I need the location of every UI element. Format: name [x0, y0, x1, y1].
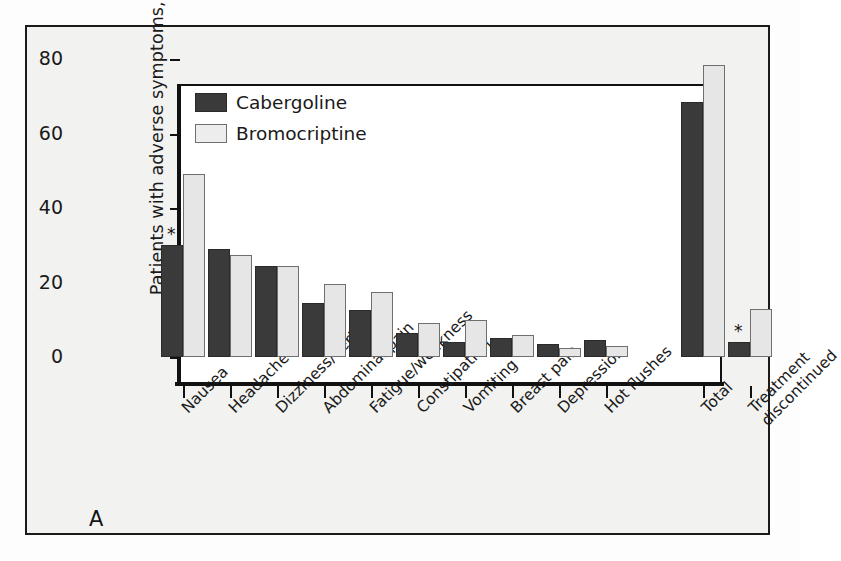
- y-tick-label: 40: [3, 196, 63, 218]
- y-tick-mark: [170, 208, 180, 210]
- bar-cabergoline-dizziness-vertigo: [255, 266, 277, 357]
- bar-bromocriptine-total: [703, 65, 725, 357]
- bar-bromocriptine-vomiting: [465, 320, 487, 357]
- panel-label: A: [89, 507, 103, 531]
- legend-swatch-cabergoline: [195, 93, 227, 112]
- legend-item-cabergoline: Cabergoline: [195, 89, 367, 116]
- bar-cabergoline-constipation: [396, 333, 418, 357]
- bar-cabergoline-vomiting: [443, 342, 465, 357]
- bar-bromocriptine-depression: [559, 348, 581, 357]
- y-tick-mark: [170, 134, 180, 136]
- legend-label-bromocriptine: Bromocriptine: [236, 123, 367, 144]
- bar-cabergoline-hot-flushes: [584, 340, 606, 357]
- significance-star: *: [167, 226, 176, 243]
- bar-cabergoline-depression: [537, 344, 559, 357]
- bar-bromocriptine-abdominal-pain: [324, 284, 346, 357]
- bar-bromocriptine-constipation: [418, 323, 440, 357]
- y-tick-label: 80: [3, 47, 63, 69]
- bar-cabergoline-abdominal-pain: [302, 303, 324, 357]
- y-tick-label: 0: [3, 345, 63, 367]
- significance-star: *: [734, 323, 743, 340]
- legend: Cabergoline Bromocriptine: [195, 89, 367, 151]
- bar-bromocriptine-treatment-discontinued: [750, 309, 772, 357]
- y-tick-label: 20: [3, 271, 63, 293]
- bar-bromocriptine-headache: [230, 255, 252, 357]
- y-axis-title-wrapper: Patients with adverse symptoms, %: [71, 87, 101, 387]
- legend-label-cabergoline: Cabergoline: [236, 92, 347, 113]
- y-tick-mark: [170, 357, 180, 359]
- bar-cabergoline-breast-pain: [490, 338, 512, 357]
- bar-cabergoline-headache: [208, 249, 230, 357]
- bar-cabergoline-total: [681, 102, 703, 357]
- bar-bromocriptine-fatigue-weakness: [371, 292, 393, 357]
- legend-item-bromocriptine: Bromocriptine: [195, 120, 367, 147]
- bar-bromocriptine-nausea: [183, 174, 205, 357]
- bar-bromocriptine-dizziness-vertigo: [277, 266, 299, 357]
- bar-cabergoline-treatment-discontinued: [728, 342, 750, 357]
- bar-cabergoline-nausea: [161, 245, 183, 357]
- legend-swatch-bromocriptine: [195, 124, 227, 143]
- bar-bromocriptine-breast-pain: [512, 335, 534, 357]
- figure-frame: Patients with adverse symptoms, % 020406…: [25, 25, 770, 535]
- bar-bromocriptine-hot-flushes: [606, 346, 628, 357]
- y-tick-mark: [170, 59, 180, 61]
- bar-cabergoline-fatigue-weakness: [349, 310, 371, 357]
- y-tick-label: 60: [3, 122, 63, 144]
